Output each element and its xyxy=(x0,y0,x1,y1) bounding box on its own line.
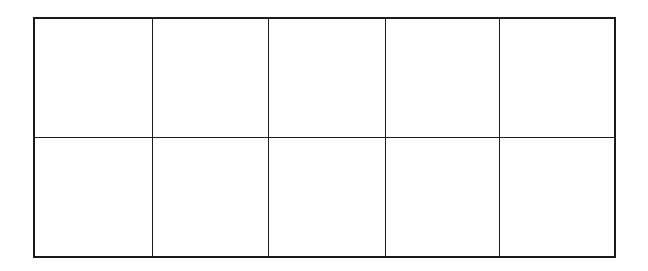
grid-cell xyxy=(35,138,153,257)
grid-cell xyxy=(153,138,270,257)
grid-cell xyxy=(153,19,270,138)
grid-cell xyxy=(35,19,153,138)
grid-cell xyxy=(500,19,614,138)
grid-cell xyxy=(269,138,386,257)
grid-cell xyxy=(269,19,386,138)
grid-cell xyxy=(386,138,501,257)
ten-frame-grid xyxy=(33,17,616,258)
grid-cell xyxy=(386,19,501,138)
grid-cell xyxy=(500,138,614,257)
